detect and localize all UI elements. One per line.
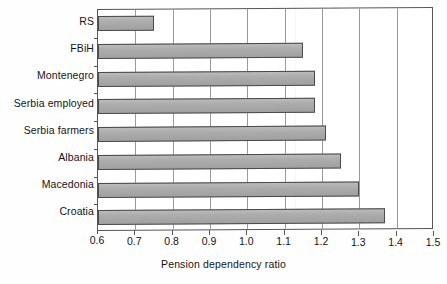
gridline-1.5	[434, 8, 435, 228]
plot-area	[97, 7, 433, 231]
bar-row	[98, 8, 432, 38]
x-axis-label-1.3: 1.3	[351, 236, 366, 248]
x-axis-label-0.9: 0.9	[202, 235, 217, 247]
bar-macedonia	[98, 181, 359, 198]
x-axis-label-1.2: 1.2	[314, 235, 329, 247]
category-label-serbia-farmers: Serbia farmers	[24, 125, 94, 136]
x-axis-label-0.6: 0.6	[90, 234, 105, 246]
category-label-albania: Albania	[58, 152, 94, 163]
x-axis-title: Pension dependency ratio	[0, 258, 447, 270]
bar-row	[98, 91, 432, 121]
pension-dependency-ratio-figure: RSFBiHMontenegroSerbia employedSerbia fa…	[0, 0, 447, 284]
x-axis-label-1.1: 1.1	[276, 235, 291, 247]
category-label-rs: RS	[79, 16, 94, 27]
bar-row	[98, 147, 432, 177]
bar-rs	[98, 16, 154, 31]
bar-row	[98, 36, 432, 66]
x-axis-label-1.5: 1.5	[426, 236, 441, 248]
x-axis-label-0.8: 0.8	[164, 235, 179, 247]
category-label-montenegro: Montenegro	[37, 70, 94, 81]
bar-row	[98, 202, 432, 232]
bar-row	[98, 174, 432, 204]
bar-albania	[98, 153, 341, 169]
bar-serbia-farmers	[98, 126, 326, 142]
bar-row	[98, 63, 432, 93]
category-label-macedonia: Macedonia	[42, 179, 94, 190]
category-label-croatia: Croatia	[59, 206, 94, 217]
bar-croatia	[98, 208, 385, 225]
x-axis-label-1.4: 1.4	[388, 236, 403, 248]
bar-montenegro	[98, 70, 315, 86]
bar-fbih	[98, 42, 303, 58]
x-axis-label-0.7: 0.7	[127, 235, 142, 247]
bar-row	[98, 119, 432, 149]
bar-serbia-employed	[98, 98, 315, 114]
category-label-fbih: FBiH	[70, 43, 94, 54]
x-axis-label-1.0: 1.0	[239, 235, 254, 247]
category-label-serbia-employed: Serbia employed	[14, 98, 94, 109]
